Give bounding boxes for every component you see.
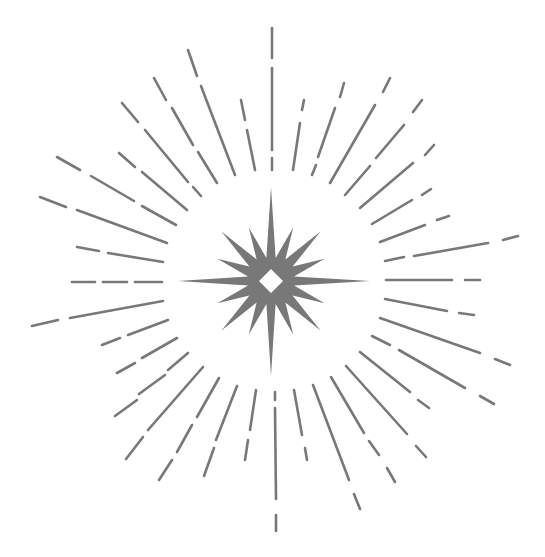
ray-dash	[197, 378, 219, 417]
ray-dash	[247, 130, 255, 170]
ray-dash	[204, 448, 214, 476]
ray-dash	[294, 390, 302, 435]
ray-dash	[376, 125, 404, 158]
ray-dash	[115, 400, 137, 416]
ray-dash	[318, 108, 335, 157]
ray-dash	[148, 367, 203, 430]
ray-dash	[425, 145, 434, 155]
ray-dash	[275, 408, 276, 499]
ray-dash	[399, 350, 465, 388]
ray-dash	[241, 100, 245, 120]
ray-dash	[331, 377, 364, 433]
ray-dash	[77, 247, 99, 251]
ray-dash	[385, 257, 404, 261]
ray-dash	[354, 494, 360, 509]
ray-dash	[380, 225, 425, 242]
ray-dash	[437, 216, 449, 220]
ray-dash	[216, 386, 237, 440]
ray-dash	[154, 78, 166, 100]
ray-dash	[372, 336, 390, 345]
ray-dash	[159, 460, 172, 480]
ray-dash	[198, 152, 217, 183]
ray-dash	[422, 189, 431, 195]
ray-dash	[172, 108, 193, 145]
ray-dash	[91, 176, 134, 201]
ray-dash	[360, 352, 410, 392]
ray-dash	[142, 172, 187, 210]
ray-dash	[413, 100, 422, 112]
ray-dash	[119, 153, 135, 167]
ray-dash	[312, 165, 316, 175]
ray-dash	[77, 210, 167, 243]
ray-dash	[480, 396, 494, 404]
ray-dash	[414, 243, 488, 256]
ray-dash	[193, 187, 201, 196]
ray-dash	[305, 448, 307, 460]
ray-dash	[126, 437, 143, 459]
ray-dash	[416, 446, 426, 457]
ray-dash	[340, 83, 344, 97]
ray-dash	[372, 200, 412, 224]
ray-dash	[293, 123, 300, 170]
ray-dash	[139, 375, 165, 394]
ray-dash	[369, 441, 379, 455]
ray-dash	[57, 157, 80, 170]
ray-dash	[503, 236, 518, 240]
ray-dash	[32, 320, 58, 326]
ray-dash	[201, 86, 235, 175]
starburst-illustration: Starburst with radiating dashed rays	[0, 0, 545, 557]
ray-dash	[250, 390, 256, 430]
ray-dash	[188, 50, 197, 76]
ray-dash	[122, 103, 138, 122]
ray-dash	[380, 318, 480, 353]
ray-dash	[495, 359, 510, 365]
ray-dash	[168, 353, 188, 370]
ray-dash	[142, 338, 177, 358]
ray-dash	[418, 400, 429, 408]
ray-dash	[102, 338, 120, 345]
ray-dash	[142, 206, 176, 225]
ray-dash	[245, 440, 248, 460]
ray-dash	[128, 320, 168, 335]
ray-dash	[117, 363, 135, 373]
ray-dash	[345, 166, 370, 195]
ray-dash	[459, 313, 474, 315]
ray-dash	[346, 366, 407, 434]
ray-dash	[330, 105, 375, 183]
ray-dash	[70, 301, 163, 318]
ray-dash	[40, 197, 66, 207]
ray-dash	[302, 100, 304, 110]
ray-dash	[383, 78, 390, 92]
ray-dash	[177, 425, 192, 452]
ray-dash	[387, 468, 395, 482]
ray-dash	[385, 299, 447, 311]
ray-dash	[145, 130, 188, 182]
sparkle-star-icon	[178, 187, 370, 376]
ray-dash	[108, 253, 163, 262]
radiating-dashed-rays	[32, 28, 518, 531]
